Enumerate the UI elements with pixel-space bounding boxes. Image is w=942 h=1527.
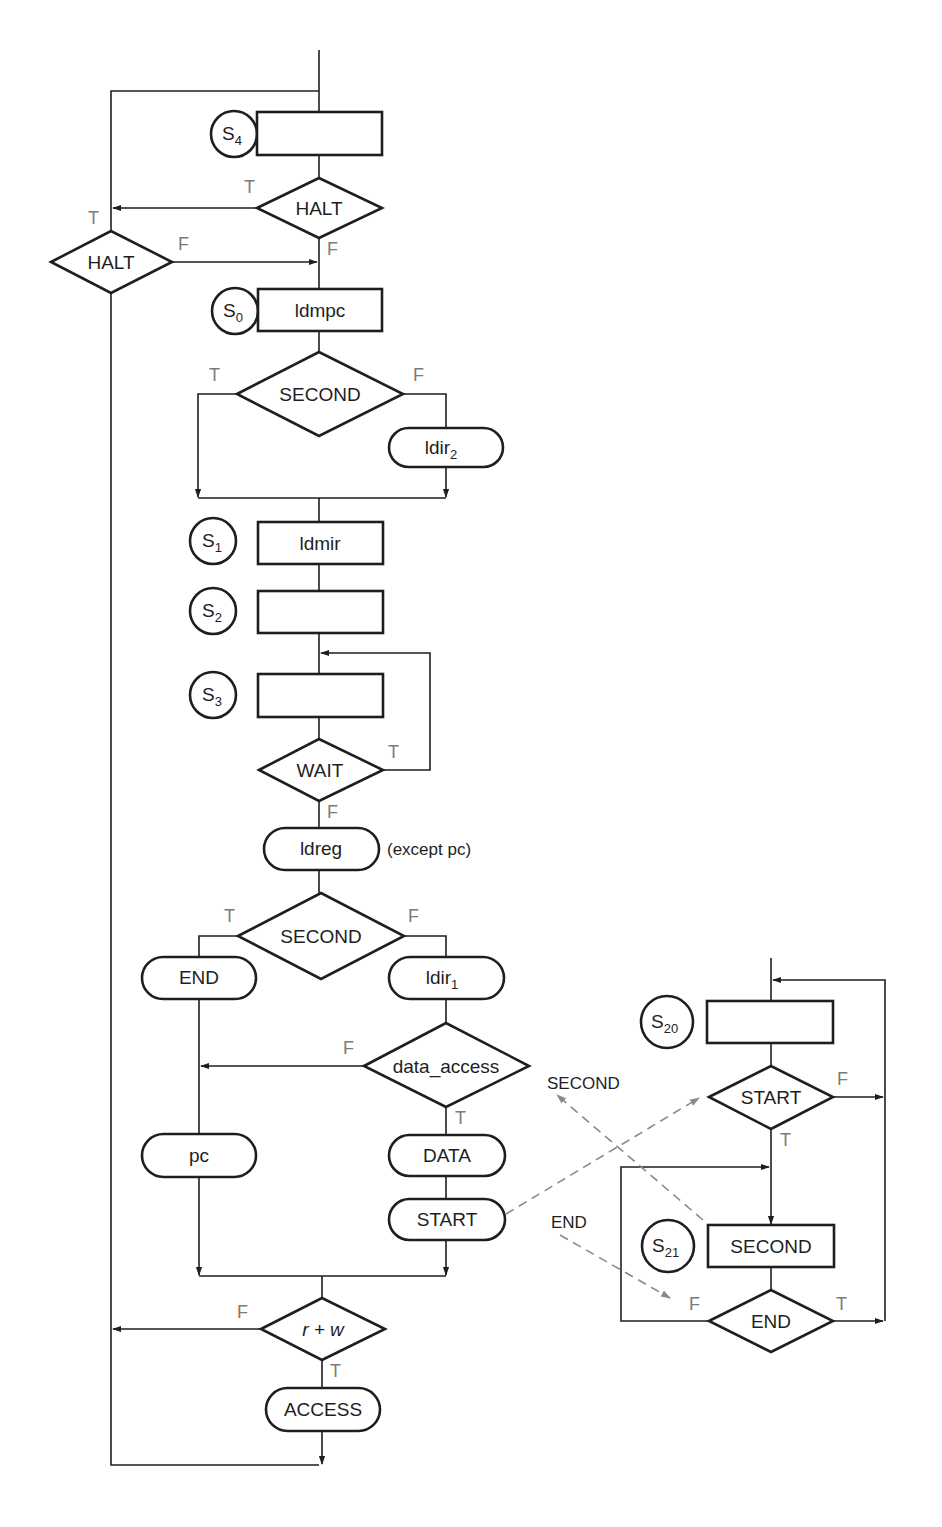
flowchart-diagram: S4 HALT T F HALT T F S0 ldmpc SECOND T F… — [0, 0, 942, 1527]
branch-false-label: F — [178, 234, 189, 254]
signal-link-second — [557, 1095, 703, 1220]
decision-label: HALT — [87, 252, 135, 273]
decision-end: END F T — [689, 1290, 847, 1352]
branch-true-label: T — [88, 208, 99, 228]
decision-label: SECOND — [280, 926, 361, 947]
decision-label: data_access — [393, 1056, 500, 1078]
output-pc: pc — [142, 1134, 256, 1177]
decision-label: r + w — [302, 1319, 345, 1340]
decision-halt-side: HALT T F — [51, 208, 189, 293]
branch-false-label: F — [327, 802, 338, 822]
branch-true-label: T — [209, 365, 220, 385]
output-label: DATA — [423, 1145, 471, 1166]
decision-label: END — [751, 1311, 791, 1332]
decision-r-plus-w: r + w F T — [237, 1298, 385, 1381]
output-label: END — [179, 967, 219, 988]
branch-true-label: T — [244, 177, 255, 197]
output-label: ldreg — [300, 838, 342, 859]
branch-false-label: F — [408, 906, 419, 926]
decision-label: SECOND — [279, 384, 360, 405]
output-ldir1: ldir1 — [389, 957, 504, 999]
branch-false-label: F — [343, 1038, 354, 1058]
state-s3: S3 — [190, 672, 383, 718]
output-note: (except pc) — [387, 840, 471, 859]
output-label: pc — [189, 1145, 209, 1166]
output-ldreg: ldreg (except pc) — [264, 828, 471, 870]
branch-false-label: F — [327, 239, 338, 259]
branch-false-label: F — [413, 365, 424, 385]
decision-halt-main: HALT T F — [244, 177, 382, 259]
state-box-label-s21: SECOND — [730, 1236, 811, 1257]
branch-true-label: T — [388, 742, 399, 762]
decision-data-access: data_access F T — [343, 1023, 529, 1128]
branch-true-label: T — [455, 1108, 466, 1128]
signal-label-end: END — [551, 1213, 587, 1232]
output-label: ACCESS — [284, 1399, 362, 1420]
decision-wait: WAIT T F — [259, 739, 399, 822]
output-end: END — [142, 957, 256, 999]
branch-true-label: T — [836, 1294, 847, 1314]
branch-false-label: F — [689, 1294, 700, 1314]
decision-label: WAIT — [297, 760, 344, 781]
state-s2: S2 — [190, 588, 383, 634]
branch-false-label: F — [837, 1069, 848, 1089]
signal-link-start — [506, 1098, 699, 1214]
state-s4: S4 — [211, 111, 382, 157]
state-s0: S0 ldmpc — [212, 288, 382, 334]
branch-true-label: T — [224, 906, 235, 926]
state-s1: S1 ldmir — [190, 518, 383, 564]
state-s21: S21 SECOND — [642, 1220, 834, 1272]
state-s20: S20 — [641, 996, 833, 1048]
output-ldir2: ldir2 — [389, 428, 503, 467]
decision-start: START F T — [709, 1066, 848, 1150]
state-box-label-s0: ldmpc — [295, 300, 346, 321]
branch-true-label: T — [330, 1361, 341, 1381]
branch-true-label: T — [780, 1130, 791, 1150]
output-start: START — [389, 1199, 505, 1240]
decision-label: HALT — [295, 198, 343, 219]
output-label: START — [417, 1209, 478, 1230]
decision-label: START — [741, 1087, 802, 1108]
state-box-s4 — [257, 112, 382, 155]
state-box-s20 — [707, 1001, 833, 1043]
decision-second-1: SECOND T F — [209, 352, 424, 436]
output-data: DATA — [389, 1135, 505, 1176]
state-box-s2 — [258, 591, 383, 633]
branch-false-label: F — [237, 1302, 248, 1322]
state-box-label-s1: ldmir — [299, 533, 341, 554]
output-access: ACCESS — [266, 1388, 380, 1431]
signal-label-second: SECOND — [547, 1074, 620, 1093]
state-box-s3 — [258, 674, 383, 717]
